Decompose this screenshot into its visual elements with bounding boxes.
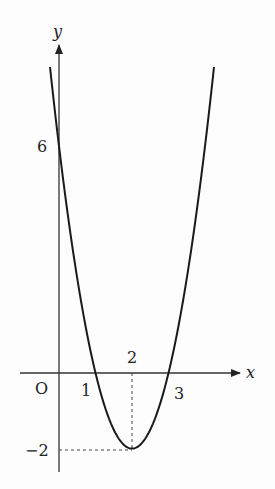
- graph-canvas: y x O 6 −2 1 2 3: [0, 0, 275, 489]
- x-tick-1: 1: [81, 381, 91, 400]
- x-axis-label: x: [246, 363, 255, 382]
- y-tick-neg2: −2: [25, 441, 49, 460]
- x-tick-2: 2: [127, 348, 137, 367]
- y-axis-label: y: [52, 22, 63, 41]
- origin-label: O: [35, 379, 48, 398]
- x-tick-3: 3: [174, 384, 184, 403]
- y-tick-6: 6: [37, 137, 47, 156]
- parabola-graph: y x O 6 −2 1 2 3: [0, 0, 275, 489]
